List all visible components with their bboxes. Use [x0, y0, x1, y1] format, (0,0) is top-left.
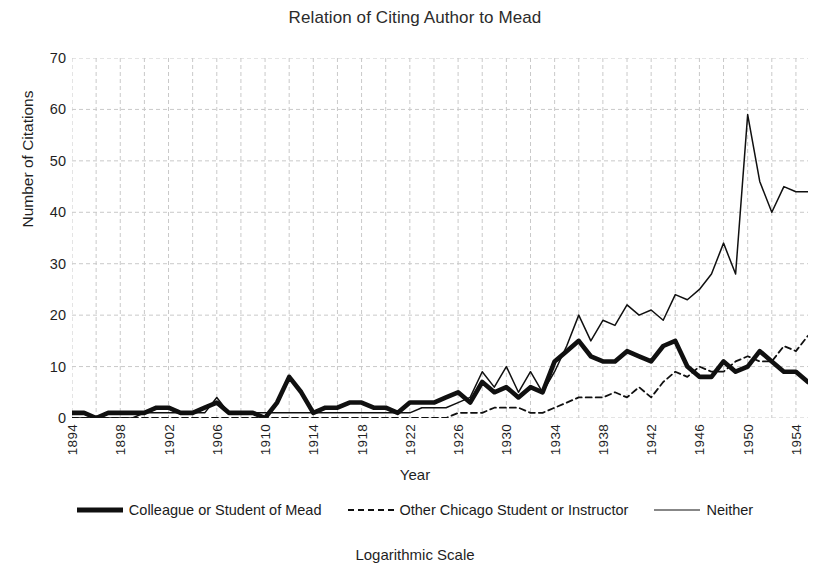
x-tick-label: 1946 — [692, 424, 707, 455]
x-tick-label: 1914 — [306, 424, 321, 455]
chart-figure: Relation of Citing Author to Mead Number… — [0, 0, 830, 564]
x-tick-label: 1906 — [210, 424, 225, 455]
legend-item-0[interactable]: Colleague or Student of Mead — [77, 502, 322, 518]
x-tick-label: 1918 — [355, 424, 370, 455]
legend-item-2[interactable]: Neither — [654, 502, 753, 518]
x-tick-label: 1894 — [65, 424, 80, 455]
legend-item-1[interactable]: Other Chicago Student or Instructor — [348, 502, 629, 518]
x-tick-label: 1910 — [258, 424, 273, 455]
series-lines — [72, 115, 808, 418]
x-tick-label: 1902 — [162, 424, 177, 455]
x-tick-label: 1938 — [596, 424, 611, 455]
y-tick-label: 40 — [26, 204, 66, 220]
y-tick-label: 10 — [26, 359, 66, 375]
x-axis-label: Year — [0, 466, 830, 483]
y-tick-label: 20 — [26, 307, 66, 323]
plot-svg — [72, 58, 808, 418]
y-tick-label: 70 — [26, 50, 66, 66]
series-line-0 — [72, 341, 808, 418]
legend-item-label: Colleague or Student of Mead — [129, 502, 322, 518]
y-tick-label: 60 — [26, 101, 66, 117]
legend-item-label: Neither — [706, 502, 753, 518]
grid-lines — [72, 58, 808, 418]
thick-solid-line-icon — [77, 504, 123, 516]
chart-subcaption: Logarithmic Scale — [0, 546, 830, 563]
x-tick-label: 1954 — [789, 424, 804, 455]
legend-item-label: Other Chicago Student or Instructor — [400, 502, 629, 518]
y-tick-label: 30 — [26, 256, 66, 272]
thin-solid-line-icon — [654, 504, 700, 516]
x-tick-label: 1930 — [499, 424, 514, 455]
x-tick-label: 1942 — [644, 424, 659, 455]
x-tick-label: 1950 — [741, 424, 756, 455]
dashed-line-icon — [348, 504, 394, 516]
x-tick-label: 1926 — [451, 424, 466, 455]
x-tick-label: 1898 — [113, 424, 128, 455]
y-tick-label: 50 — [26, 153, 66, 169]
chart-title: Relation of Citing Author to Mead — [0, 8, 830, 28]
x-tick-label: 1934 — [548, 424, 563, 455]
x-tick-label: 1922 — [403, 424, 418, 455]
chart-legend: Colleague or Student of MeadOther Chicag… — [0, 497, 830, 523]
plot-area — [72, 58, 808, 418]
x-axis-ticks: 1894189819021906191019141918192219261930… — [0, 424, 830, 470]
